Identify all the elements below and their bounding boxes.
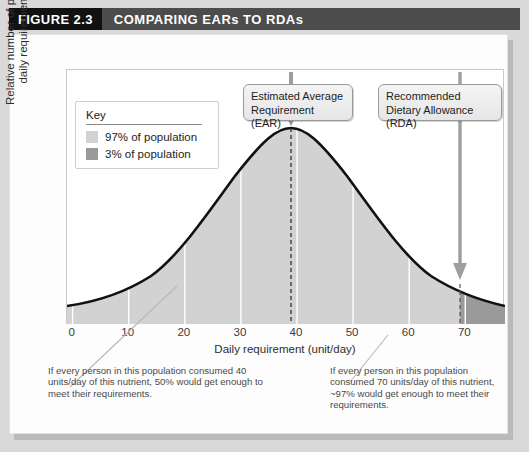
x-tick-60: 60 [402, 326, 415, 338]
x-tick-10: 10 [121, 326, 134, 338]
legend-title: Key [86, 109, 202, 125]
note-left: If every person in this population consu… [48, 365, 263, 399]
figure-title: COMPARING EARs TO RDAs [102, 8, 304, 30]
x-tick-30: 30 [233, 326, 246, 338]
legend-label-3: 3% of population [105, 148, 191, 160]
x-tick-20: 20 [177, 326, 190, 338]
legend-key: Key 97% of population 3% of population [75, 101, 219, 169]
x-tick-0: 0 [68, 326, 74, 338]
legend-swatch-97-icon [86, 131, 98, 143]
legend-item-3: 3% of population [86, 148, 208, 160]
x-tick-70: 70 [458, 326, 471, 338]
figure-header: FIGURE 2.3 COMPARING EARs TO RDAs [9, 8, 520, 30]
x-axis-ticks: 0 10 20 30 40 50 60 70 [66, 326, 504, 344]
callout-rda: Recommended Dietary Allowance (RDA) [378, 84, 502, 121]
legend-item-97: 97% of population [86, 131, 208, 143]
y-axis-label-line1: Relative number of people with [4, 0, 17, 131]
x-axis-label: Daily requirement (unit/day) [66, 343, 504, 355]
y-axis-label-line2: daily requirement level [17, 0, 30, 131]
y-axis-label: Relative number of people with daily req… [4, 0, 30, 131]
x-tick-50: 50 [346, 326, 359, 338]
legend-label-97: 97% of population [105, 131, 197, 143]
x-tick-40: 40 [290, 326, 303, 338]
note-right: If every person in this population consu… [330, 365, 515, 411]
legend-swatch-3-icon [86, 148, 98, 160]
callout-ear: Estimated Average Requirement (EAR) [243, 84, 353, 121]
